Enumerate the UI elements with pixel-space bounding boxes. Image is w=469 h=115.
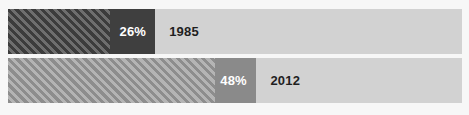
bar-value-label-2012: 48% [220, 74, 247, 87]
bar-value-block-1985: 26% [110, 9, 155, 54]
bar-hatch-segment-2012 [8, 58, 215, 103]
bar-category-label-2012: 2012 [270, 58, 300, 103]
bar-value-block-2012: 48% [215, 58, 256, 103]
chart-canvas: 26% 1985 48% 2012 [0, 0, 469, 115]
bar-hatch-segment-1985 [8, 9, 110, 54]
bar-category-label-1985: 1985 [169, 9, 199, 54]
bar-row-2012[interactable]: 48% 2012 [8, 58, 462, 103]
bar-value-label-1985: 26% [119, 25, 146, 38]
bar-row-1985[interactable]: 26% 1985 [8, 9, 462, 54]
